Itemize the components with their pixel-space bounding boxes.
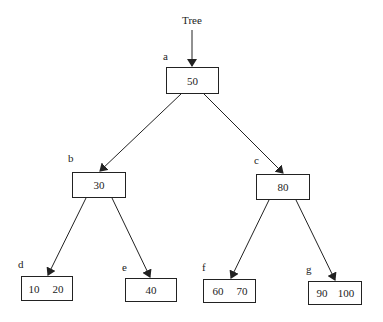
tree-diagram: Tree a 50 b 30 c 80 d 10 20 e 40 f 6 xyxy=(0,0,383,322)
node-key: 20 xyxy=(53,283,65,295)
node-a: a 50 xyxy=(163,50,219,94)
node-label: f xyxy=(202,261,206,273)
node-label: c xyxy=(254,154,259,166)
node-label: g xyxy=(306,263,312,275)
node-label: d xyxy=(18,258,24,270)
node-box xyxy=(204,280,256,303)
node-key: 10 xyxy=(29,283,41,295)
edge-a-b xyxy=(100,94,181,171)
edge-c-g xyxy=(296,200,335,280)
node-key: 50 xyxy=(187,75,199,87)
node-g: g 90 100 xyxy=(306,263,362,305)
node-key: 80 xyxy=(278,181,290,193)
edge-b-e xyxy=(112,198,150,277)
node-key: 70 xyxy=(237,285,249,297)
node-d: d 10 20 xyxy=(18,258,73,301)
node-f: f 60 70 xyxy=(202,261,256,303)
node-key: 100 xyxy=(338,287,355,299)
node-e: e 40 xyxy=(122,261,177,302)
edge-a-c xyxy=(204,94,283,173)
node-label: a xyxy=(163,50,168,62)
node-c: c 80 xyxy=(254,154,310,200)
edge-c-f xyxy=(231,200,269,278)
node-key: 90 xyxy=(317,287,329,299)
node-label: e xyxy=(122,261,127,273)
node-key: 40 xyxy=(146,284,158,296)
root-pointer-label: Tree xyxy=(182,14,202,26)
edge-b-d xyxy=(48,198,86,275)
node-b: b 30 xyxy=(68,152,126,198)
node-key: 60 xyxy=(213,285,225,297)
node-label: b xyxy=(68,152,74,164)
node-key: 30 xyxy=(94,179,106,191)
